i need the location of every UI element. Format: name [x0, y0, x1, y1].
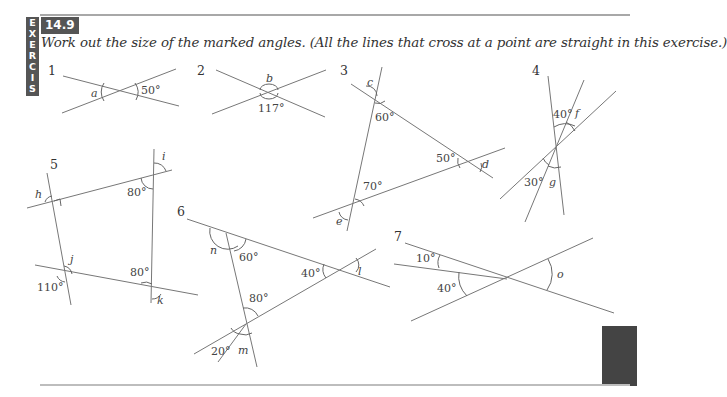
unknown-angle-o: o [557, 268, 564, 281]
given-angle: 40° [301, 267, 321, 280]
unknown-angle-h: h [35, 188, 42, 201]
unknown-angle-c: c [367, 76, 373, 89]
given-angle: 20° [211, 345, 231, 358]
unknown-angle-k: k [157, 294, 164, 307]
question-number: 1 [48, 63, 56, 78]
question-number: 3 [340, 63, 348, 78]
given-angle: 80° [130, 266, 150, 279]
unknown-angle-i: i [162, 150, 166, 163]
unknown-angle-d: d [482, 158, 489, 171]
page-edge-tab [602, 326, 637, 386]
question-number: 5 [50, 157, 58, 172]
given-angle: 50° [141, 84, 161, 97]
given-angle: 60° [375, 111, 395, 124]
question-number: 4 [532, 63, 540, 78]
unknown-angle-n: n [210, 244, 217, 257]
given-angle: 110° [37, 281, 64, 294]
question-3-diagram: 3 c 60° 50° d 70° e [313, 63, 505, 231]
unknown-angle-a: a [91, 87, 98, 100]
given-angle: 40° [553, 108, 573, 121]
given-angle: 40° [437, 282, 457, 295]
question-number: 2 [197, 63, 205, 78]
bottom-rule [40, 384, 630, 386]
question-number: 6 [177, 204, 185, 219]
unknown-angle-b: b [266, 72, 273, 85]
question-5-diagram: 5 h i 80° j 80° 110° k [27, 149, 198, 307]
question-1-diagram: 1 a 50° [48, 63, 179, 113]
unknown-angle-g: g [549, 176, 556, 189]
question-2-diagram: 2 b 117° [197, 63, 326, 117]
unknown-angle-m: m [238, 344, 248, 357]
given-angle: 70° [363, 180, 383, 193]
given-angle: 80° [127, 186, 147, 199]
unknown-angle-l: l [358, 265, 362, 278]
given-angle: 60° [239, 251, 259, 264]
unknown-angle-f: f [574, 107, 581, 120]
given-angle: 10° [416, 252, 436, 265]
given-angle: 117° [258, 102, 285, 115]
question-4-diagram: 4 40° f 30° g [500, 63, 616, 222]
given-angle: 80° [249, 292, 269, 305]
unknown-angle-j: j [67, 253, 74, 266]
given-angle: 50° [436, 152, 456, 165]
question-7-diagram: 7 10° 40° o [394, 229, 614, 321]
question-6-diagram: 6 n 60° 40° l 80° 20° m [177, 204, 390, 367]
unknown-angle-e: e [336, 215, 343, 228]
question-number: 7 [394, 229, 402, 244]
given-angle: 30° [524, 176, 544, 189]
